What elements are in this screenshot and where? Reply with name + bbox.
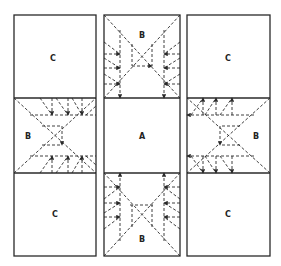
panel-left-bottom: C — [52, 210, 58, 219]
panel-label: B — [139, 235, 145, 244]
panel-label: B — [139, 31, 145, 40]
column-right: C B C — [187, 15, 270, 256]
panel-label: C — [225, 54, 231, 63]
quilt-diagram: C B — [0, 0, 281, 266]
panel-label: C — [225, 210, 231, 219]
panel-right-bottom: C — [225, 210, 231, 219]
panel-left-top: C — [50, 54, 56, 63]
panel-middle-center: A — [139, 132, 146, 141]
panel-middle-top-folds — [104, 15, 180, 98]
panel-label: A — [139, 132, 146, 141]
panel-label: B — [253, 132, 259, 141]
column-left: C B — [14, 15, 96, 256]
panel-label: B — [25, 132, 31, 141]
panel-label: C — [50, 54, 56, 63]
panel-right-top: C — [225, 54, 231, 63]
column-middle: B A B — [104, 15, 180, 256]
panel-label: C — [52, 210, 58, 219]
